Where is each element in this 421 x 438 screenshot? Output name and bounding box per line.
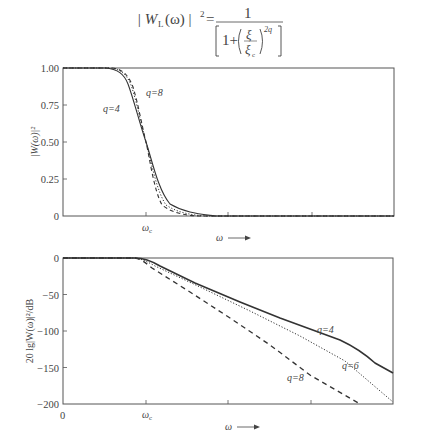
plot2-label-q8: q=8	[287, 372, 304, 383]
plot1-curve-q8	[63, 68, 394, 216]
plot2-ytick: −150	[37, 363, 59, 374]
arrow-icon	[228, 236, 251, 241]
plot1-ytick: 1.00	[41, 63, 59, 74]
plot2-xtick-wc: ω	[142, 409, 149, 420]
plot1-ytick: 0.75	[41, 100, 59, 111]
arrow-icon	[237, 425, 260, 430]
plot2-ylabel: 20 lg|W(ω)|²/dB	[24, 298, 36, 363]
plot1-xtick-wc: ω	[142, 222, 149, 233]
plot2-x0-label: 0	[60, 410, 65, 421]
plot1-curve-q6	[63, 68, 394, 216]
plot2-ytick: −50	[43, 290, 59, 301]
magnitude-plot: 1.00 0.75 0.50 0.25 0 |W(ω)|² ω c ω q=4 …	[29, 63, 394, 243]
plot2-ytick: −100	[37, 326, 59, 337]
plot1-ytick: 0	[54, 211, 59, 222]
plot2-xaxis-label: ω	[225, 421, 232, 432]
plot2-curve-q4	[63, 258, 393, 373]
charts: 1.00 0.75 0.50 0.25 0 |W(ω)|² ω c ω q=4 …	[0, 0, 421, 438]
plot2-curve-q6	[63, 258, 393, 402]
plot1-xaxis-label: ω	[216, 232, 223, 243]
plot2-label-q6: q=6	[342, 360, 359, 371]
plot1-frame	[63, 68, 394, 216]
plot2-label-q4: q=4	[317, 324, 334, 335]
svg-text:c: c	[149, 227, 152, 235]
plot2-ytick: 0	[54, 253, 59, 264]
plot1-ytick: 0.50	[41, 137, 59, 148]
svg-text:c: c	[149, 414, 152, 422]
plot1-label-q4: q=4	[103, 103, 120, 114]
plot2-frame	[63, 258, 393, 404]
db-plot: 0 −50 −100 −150 −200 20 lg|W(ω)|²/dB 0 ω…	[24, 253, 393, 432]
plot1-ylabel: |W(ω)|²	[29, 126, 41, 158]
plot2-ytick: −200	[37, 399, 59, 410]
plot1-label-q8: q=8	[146, 87, 163, 98]
plot1-curve-q4	[63, 68, 394, 216]
plot1-ytick: 0.25	[41, 174, 59, 185]
